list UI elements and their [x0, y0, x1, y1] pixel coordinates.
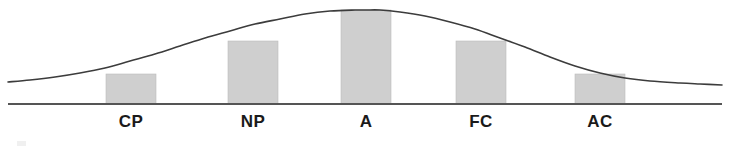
chart-canvas — [0, 0, 730, 156]
band-rect-fc — [456, 41, 506, 104]
egogram-chart: CP NP A FC AC — [0, 0, 730, 156]
band-group — [106, 10, 625, 104]
axis-label-a: A — [360, 113, 373, 130]
axis-label-cp: CP — [119, 113, 143, 130]
axis-label-fc: FC — [469, 113, 492, 130]
band-rect-ac — [575, 74, 625, 104]
band-rect-a — [341, 10, 391, 104]
band-rect-np — [228, 41, 278, 104]
axis-label-ac: AC — [587, 113, 612, 130]
scan-artifact-speck — [17, 141, 26, 146]
band-rect-cp — [106, 74, 156, 104]
axis-label-np: NP — [241, 113, 265, 130]
